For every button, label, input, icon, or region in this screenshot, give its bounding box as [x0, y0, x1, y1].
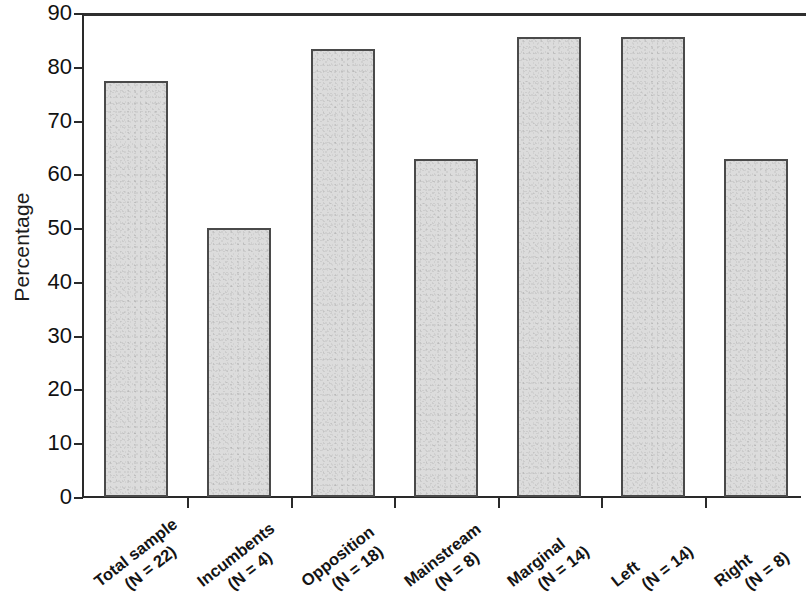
bar [517, 37, 581, 497]
x-axis-category-label: Total sample(N = 22) [90, 514, 194, 596]
y-tick-label: 70 [28, 110, 72, 132]
y-tick-label: 90 [28, 2, 72, 24]
x-tick-mark [601, 497, 603, 508]
y-tick-label: 20 [28, 378, 72, 400]
bar [621, 37, 685, 497]
x-tick-mark [705, 497, 707, 508]
x-axis-category-label: Mainstream(N = 8) [400, 519, 498, 596]
x-axis-category-label: Right(N = 8) [710, 530, 793, 596]
y-tick-label: 40 [28, 271, 72, 293]
x-tick-mark [291, 497, 293, 508]
y-tick-label: 10 [28, 432, 72, 454]
y-tick-label: 50 [28, 217, 72, 239]
x-axis-category-label: Left(N = 14) [607, 524, 698, 596]
bar [104, 81, 168, 497]
y-tick-label: 30 [28, 325, 72, 347]
bar [414, 159, 478, 497]
x-tick-mark [394, 497, 396, 508]
y-tick-label: 0 [28, 486, 72, 508]
y-tick-label: 80 [28, 56, 72, 78]
plot-area [82, 13, 806, 497]
x-axis-category-label: Incumbents(N = 4) [193, 518, 292, 596]
y-tick-label: 60 [28, 163, 72, 185]
bar [724, 159, 788, 497]
bar [311, 49, 375, 498]
x-tick-mark [187, 497, 189, 508]
bar [207, 228, 271, 497]
x-tick-mark [498, 497, 500, 508]
x-axis-category-label: Marginal(N = 14) [503, 524, 594, 596]
x-axis-category-label: Opposition(N = 18) [297, 521, 391, 596]
